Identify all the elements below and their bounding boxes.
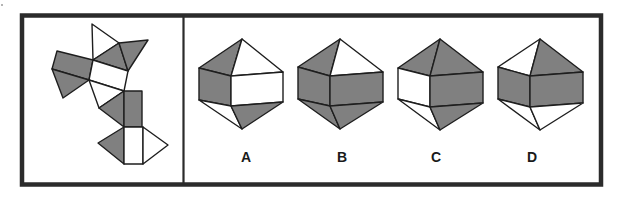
net-face-9 [98,127,124,164]
option-label: C [431,149,441,165]
options-panel: ABCD [199,39,583,165]
option-a-front-face [231,72,283,106]
option-b[interactable]: B [298,39,383,165]
option-b-front-face [330,72,383,106]
option-b-bottom-right-face [330,102,383,129]
option-d-front-face [530,72,583,107]
option-d-bottom-right-face [530,103,583,130]
option-c-bottom-right-face [430,103,483,130]
speck [1,4,3,6]
net-panel [52,24,168,164]
option-c-top-right-face [430,39,483,76]
option-label: D [527,149,537,165]
net-face-10 [124,127,143,164]
option-d-top-right-face [530,39,583,76]
puzzle-figure: ABCD [0,0,617,197]
option-label: B [337,149,347,165]
option-label: A [241,149,251,165]
option-d[interactable]: D [498,39,583,165]
net-face-11 [143,127,168,164]
option-b-top-right-face [330,39,383,76]
option-c[interactable]: C [398,39,483,165]
option-a[interactable]: A [199,39,283,165]
net-face-8 [124,91,142,127]
option-c-front-face [430,72,483,107]
